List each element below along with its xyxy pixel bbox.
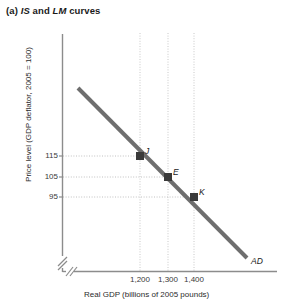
- y-axis-tick-label-105: 105: [36, 172, 58, 181]
- marker-point-k: [190, 193, 198, 201]
- series-label-ad: AD: [251, 256, 263, 266]
- x-axis-tick-label-1200: 1,200: [125, 275, 155, 284]
- series-ad-curve: [78, 88, 247, 258]
- gridlines: [63, 33, 194, 271]
- ad-curve-line: [78, 88, 247, 258]
- data-label-e: E: [173, 167, 179, 177]
- figure-panel: (a) IS and LM curves: [0, 0, 281, 307]
- y-axis-tick-label-95: 95: [36, 192, 58, 201]
- data-point-markers: [136, 152, 198, 201]
- x-axis-tick-label-1400: 1,400: [179, 275, 209, 284]
- marker-point-j: [136, 152, 144, 160]
- y-axis-title: Price level (GDP deflator, 2005 = 100): [24, 35, 33, 195]
- x-axis-title: Real GDP (billions of 2005 pounds): [84, 290, 209, 299]
- y-axis-tick-label-115: 115: [36, 151, 58, 160]
- data-label-k: K: [199, 187, 205, 197]
- data-label-j: J: [145, 146, 149, 156]
- marker-point-e: [164, 173, 172, 181]
